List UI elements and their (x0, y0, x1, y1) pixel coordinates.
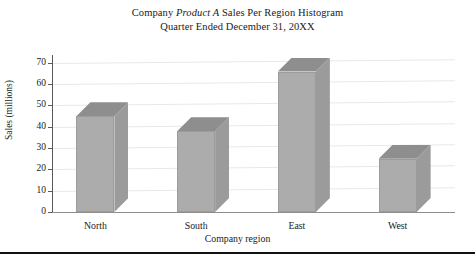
y-axis-tick-label: 40 (37, 122, 47, 132)
y-axis-tick-label: 60 (37, 79, 47, 89)
bar-side-face (114, 102, 128, 212)
chart-title-post: Sales Per Region Histogram (219, 7, 343, 18)
y-axis-tick (48, 169, 52, 170)
y-axis-tick-label: 50 (37, 100, 47, 110)
y-axis-tick (48, 191, 52, 192)
y-axis-tick (48, 63, 52, 64)
chart-title-line-1: Company Product A Sales Per Region Histo… (0, 6, 475, 20)
plot-area: 70 60 50 40 30 20 10 0 (52, 55, 455, 218)
chart-title-emphasis: Product A (176, 7, 219, 18)
bar-north (76, 102, 128, 212)
bar-front-face (177, 131, 215, 212)
chart-title-block: Company Product A Sales Per Region Histo… (0, 6, 475, 34)
chart-figure: Company Product A Sales Per Region Histo… (0, 0, 475, 266)
bar-west (379, 145, 431, 212)
y-axis-tick-label: 70 (37, 58, 47, 68)
x-axis-label-north: North (84, 220, 107, 232)
x-axis-tick-labels: NorthSouthEastWest (52, 220, 455, 234)
x-axis-title: Company region (0, 233, 475, 244)
y-axis-tick (48, 127, 52, 128)
chart-title-pre: Company (132, 7, 176, 18)
bar-front-face (278, 72, 316, 212)
bar-east (278, 58, 330, 212)
y-axis-tick-label: 0 (41, 207, 46, 217)
x-axis-label-east: East (288, 220, 305, 232)
bar-front-face (379, 159, 417, 212)
bar-south (177, 117, 229, 212)
gridline (52, 80, 455, 85)
x-axis-label-west: West (388, 220, 407, 232)
bottom-rule (0, 252, 475, 254)
y-axis-tick-label: 20 (37, 164, 47, 174)
bar-front-face (76, 116, 114, 212)
y-axis-tick (48, 148, 52, 149)
x-axis-label-south: South (185, 220, 208, 232)
y-axis-line (52, 55, 53, 213)
y-axis-tick-label: 30 (37, 143, 47, 153)
y-axis-tick (48, 105, 52, 106)
x-axis-line (52, 212, 455, 213)
bar-side-face (215, 117, 229, 212)
chart-subtitle: Quarter Ended December 31, 20XX (0, 20, 475, 34)
y-axis-tick-label: 10 (37, 186, 47, 196)
y-axis-tick (48, 84, 52, 85)
gridline (52, 59, 455, 64)
y-axis-title: Sales (millions) (4, 80, 14, 140)
bar-side-face (316, 58, 330, 212)
